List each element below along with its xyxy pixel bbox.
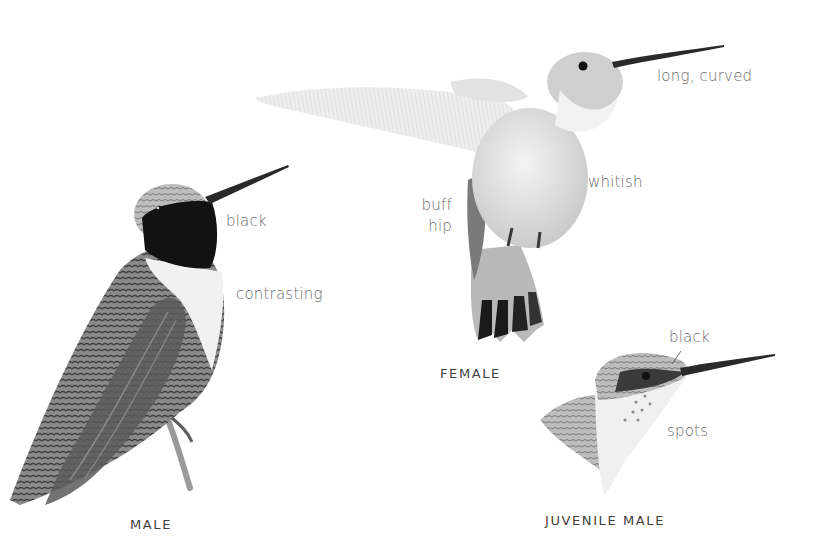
female-hip-annotation-line1: buff [420, 195, 452, 216]
female-hip-annotation: buff hip [420, 195, 452, 237]
female-title: FEMALE [440, 366, 501, 381]
male-collar-annotation: contrasting [236, 285, 323, 303]
female-underparts-annotation: whitish [588, 173, 643, 191]
female-hummingbird-illustration [255, 45, 724, 342]
juvenile-eye-line-annotation: black [669, 328, 710, 346]
male-title: MALE [130, 517, 172, 532]
male-throat-annotation: black [226, 212, 267, 230]
juvenile-male-title: JUVENILE MALE [545, 513, 665, 528]
juvenile-male-hummingbird-illustration [540, 351, 775, 495]
female-bill-annotation: long, curved [657, 67, 752, 85]
female-hip-annotation-line2: hip [420, 216, 452, 237]
juvenile-throat-annotation: spots [667, 422, 708, 440]
hummingbird-identification-plate: black contrasting MALE long, curved whit… [0, 0, 824, 559]
